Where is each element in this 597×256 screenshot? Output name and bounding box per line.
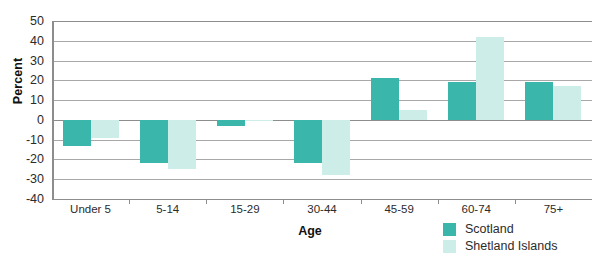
x-axis-title: Age xyxy=(250,224,370,238)
y-axis-tick-labels: 50403020100-10-20-30-40 xyxy=(0,21,48,199)
y-axis-tick-label: 50 xyxy=(30,15,44,28)
bar xyxy=(168,120,196,169)
y-axis-tick-label: 30 xyxy=(30,54,44,67)
x-axis-tick-label: 30-44 xyxy=(307,203,336,215)
bar xyxy=(322,120,350,175)
y-axis-tick-label: 40 xyxy=(30,35,44,48)
y-axis-tick-label: -40 xyxy=(26,193,44,206)
legend-item[interactable]: Shetland Islands xyxy=(443,238,593,254)
y-axis-tick-label: 20 xyxy=(30,74,44,87)
bar xyxy=(91,120,119,138)
bar xyxy=(63,120,91,146)
bar xyxy=(294,120,322,164)
bar-group xyxy=(371,21,427,199)
x-axis-tick-label: Under 5 xyxy=(70,203,111,215)
bar-group xyxy=(63,21,119,199)
bar-group xyxy=(217,21,273,199)
bars-layer xyxy=(52,21,592,199)
bar-group xyxy=(294,21,350,199)
bar xyxy=(140,120,168,164)
y-axis-tick-label: 0 xyxy=(37,114,44,127)
legend-label: Scotland xyxy=(465,222,514,236)
bar xyxy=(448,82,476,120)
bar-group xyxy=(525,21,581,199)
bar xyxy=(476,37,504,120)
legend-swatch-icon xyxy=(443,223,456,236)
bar-group xyxy=(448,21,504,199)
x-axis-tick-label: 60-74 xyxy=(462,203,491,215)
bar xyxy=(371,78,399,120)
x-axis-tick-label: 5-14 xyxy=(156,203,179,215)
y-axis-tick-label: -30 xyxy=(26,173,44,186)
bar xyxy=(217,120,245,126)
bar xyxy=(245,120,273,121)
legend-label: Shetland Islands xyxy=(465,239,557,253)
y-axis-tick-label: 10 xyxy=(30,94,44,107)
x-axis-tick-label: 75+ xyxy=(544,203,564,215)
plot-area xyxy=(52,21,592,199)
x-axis-tick-label: 15-29 xyxy=(230,203,259,215)
bar xyxy=(553,86,581,120)
x-axis-tick-labels: Under 55-1415-2930-4445-5960-7475+ xyxy=(52,203,592,221)
legend-swatch-icon xyxy=(443,240,456,253)
bar xyxy=(525,82,553,120)
x-axis-tick-label: 45-59 xyxy=(384,203,413,215)
bar xyxy=(399,110,427,120)
bar-chart: Percent 50403020100-10-20-30-40 Under 55… xyxy=(0,0,597,256)
legend-item[interactable]: Scotland xyxy=(443,221,593,237)
bar-group xyxy=(140,21,196,199)
y-axis-tick-label: -20 xyxy=(26,153,44,166)
chart-legend: ScotlandShetland Islands xyxy=(443,221,593,255)
y-axis-tick-label: -10 xyxy=(26,133,44,146)
